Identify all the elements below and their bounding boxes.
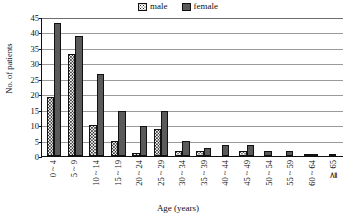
y-axis-tick-label: 20 [20,91,39,100]
x-axis-tick-cell: 30 ~ 34 [171,160,193,204]
y-axis-tick-label: 45 [20,14,39,23]
x-axis-tick-label: 60 ~ 64 [307,160,316,186]
bar-group [300,18,321,156]
x-axis-tick-label: 35 ~ 39 [199,160,208,186]
bar-group [322,18,343,156]
bar-group [150,18,171,156]
x-axis-tick-label: 0 ~ 4 [48,160,57,177]
bar-group [86,18,107,156]
x-axis-tick-label: ≧ 65 [329,160,338,179]
x-axis-tick-cell: 20 ~ 24 [128,160,150,204]
legend-item-male: male [138,2,168,11]
bar-groups [43,18,343,156]
x-axis-tick-cell: 5 ~ 9 [64,160,86,204]
y-axis-tick-label: 10 [20,122,39,131]
x-axis-tick-cell: 60 ~ 64 [301,160,323,204]
x-axis-tick-cell: 40 ~ 44 [215,160,237,204]
y-axis-tick-label: 5 [20,137,39,146]
x-axis-tick-labels: 0 ~ 45 ~ 910 ~ 1415 ~ 1920 ~ 2425 ~ 2930… [42,160,344,204]
bar-male [68,54,75,156]
bar-female [182,141,189,156]
y-axis-tick-label: 35 [20,44,39,53]
x-axis-tick-cell: 45 ~ 49 [236,160,258,204]
x-axis-tick-cell: 25 ~ 29 [150,160,172,204]
bar-male [154,129,161,156]
bar-female [140,126,147,156]
x-axis-tick-label: 15 ~ 19 [113,160,122,186]
x-axis-tick-label: 5 ~ 9 [70,160,79,177]
bar-group [193,18,214,156]
x-axis-tick-label: 30 ~ 34 [178,160,187,186]
chart-legend: male female [0,2,356,11]
x-axis-tick-cell: 35 ~ 39 [193,160,215,204]
y-axis-title: No. of patients [5,29,14,109]
legend-swatch-male-icon [138,3,147,11]
bar-female [222,145,229,156]
y-axis-tick [39,157,42,158]
bar-group [107,18,128,156]
bar-male [304,154,311,156]
x-axis-tick-label: 45 ~ 49 [242,160,251,186]
bar-male [47,97,54,156]
bar-male [175,151,182,156]
x-axis-tick-cell: 50 ~ 54 [258,160,280,204]
x-axis-tick-cell: ≧ 65 [323,160,345,204]
bar-female [311,154,318,156]
plot-area [41,18,343,157]
y-axis-tick-label: 0 [20,153,39,162]
x-axis-tick-cell: 15 ~ 19 [107,160,129,204]
bar-group [129,18,150,156]
bar-female [204,148,211,156]
bar-group [65,18,86,156]
x-axis-tick-cell: 10 ~ 14 [85,160,107,204]
bar-chart: male female No. of patients 051015202530… [0,0,356,221]
x-axis-tick-cell: 55 ~ 59 [279,160,301,204]
bar-group [279,18,300,156]
legend-label-female: female [194,2,218,11]
y-axis-tick-label: 40 [20,29,39,38]
y-axis-tick-label: 30 [20,60,39,69]
bar-group [236,18,257,156]
bar-female [118,111,125,156]
x-axis-tick-label: 10 ~ 14 [91,160,100,186]
x-axis-title: Age (years) [0,203,356,213]
bar-female [264,151,271,156]
bar-group [257,18,278,156]
y-axis-tick-label: 15 [20,106,39,115]
x-axis-tick-label: 40 ~ 44 [221,160,230,186]
bar-female [161,111,168,156]
y-axis-tick-labels: 051015202530354045 [20,12,39,157]
bar-group [43,18,64,156]
x-axis-tick-label: 50 ~ 54 [264,160,273,186]
bar-female [75,36,82,156]
x-axis-tick-label: 55 ~ 59 [286,160,295,186]
bar-female [286,151,293,156]
legend-swatch-female-icon [182,3,191,11]
bar-male [196,151,203,156]
bar-female [329,154,336,156]
x-axis-tick-label: 20 ~ 24 [135,160,144,186]
bar-group [172,18,193,156]
bar-male [239,151,246,156]
bar-female [97,74,104,156]
bar-male [132,153,139,156]
y-axis-tick-label: 25 [20,75,39,84]
legend-label-male: male [150,2,168,11]
x-axis-tick-label: 25 ~ 29 [156,160,165,186]
legend-item-female: female [182,2,218,11]
bar-group [215,18,236,156]
bar-female [54,23,61,156]
bar-male [111,141,118,156]
bar-male [89,125,96,156]
bar-female [247,145,254,156]
x-axis-tick-cell: 0 ~ 4 [42,160,64,204]
